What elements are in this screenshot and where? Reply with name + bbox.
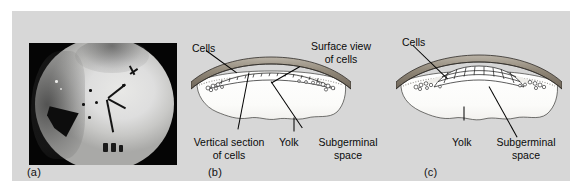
blastodisc-micrograph — [29, 43, 177, 165]
label-subgerminal-line1: Subgerminal — [489, 136, 563, 149]
label-cells-b: Cells — [192, 42, 215, 55]
blastodisc-marker-bar — [119, 145, 123, 152]
blastodisc-speck — [82, 103, 85, 106]
label-subgerminal-line2: space — [311, 149, 385, 162]
blastodisc-speck — [89, 89, 92, 92]
label-cells-c: Cells — [402, 36, 425, 49]
blastoderm-diagram-c — [396, 52, 562, 134]
label-subgerminal-line1: Subgerminal — [311, 136, 385, 149]
blastodisc-shadow-left — [31, 51, 85, 159]
blastodisc-speck — [88, 116, 91, 119]
blastodisc-marker-bar — [103, 143, 108, 152]
leader-yolk-c — [464, 107, 465, 121]
panel-letter-b: (b) — [208, 166, 222, 178]
leader-yolk-b — [294, 118, 295, 132]
panel-letter-c: (c) — [424, 166, 437, 178]
label-yolk-c: Yolk — [452, 136, 471, 149]
blastodisc-speck — [122, 84, 125, 87]
panel-letter-a: (a) — [27, 166, 41, 178]
blastoderm-diagram-b — [191, 55, 351, 133]
label-vertical-section-line2: of cells — [186, 149, 272, 162]
label-yolk-b: Yolk — [279, 136, 298, 149]
blastodisc-speck — [55, 80, 58, 83]
label-vertical-section-line1: Vertical section — [186, 136, 272, 149]
label-vertical-section-of-cells-b: Vertical section of cells — [186, 136, 272, 161]
figure-root: (a) — [0, 0, 587, 196]
label-subgerminal-line2: space — [489, 149, 563, 162]
label-subgerminal-space-c: Subgerminal space — [489, 136, 563, 161]
label-surface-view-line2: of cells — [296, 53, 386, 66]
label-surface-view-of-cells-b: Surface view of cells — [296, 40, 386, 65]
blastodisc-marker-bar — [111, 143, 116, 152]
label-subgerminal-space-b: Subgerminal space — [311, 136, 385, 161]
label-surface-view-line1: Surface view — [296, 40, 386, 53]
